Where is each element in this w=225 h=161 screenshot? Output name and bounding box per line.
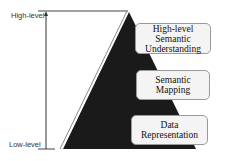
high-level-label: High-level [11, 11, 44, 20]
level-text-line: Representation [141, 130, 198, 140]
arrow-head-icon [44, 11, 48, 16]
level-box-semantic-mapping: Semantic Mapping [136, 70, 210, 100]
level-text-line: Data [161, 120, 179, 130]
level-text-line: Semantic [155, 75, 190, 85]
level-text-line: Understanding [145, 44, 201, 54]
semantic-level-pyramid-diagram: High-level Low-level High-level Semantic… [0, 0, 225, 161]
level-text-line: Mapping [156, 85, 190, 95]
level-text-line: High-level [153, 24, 194, 34]
level-box-high-level-semantic-understanding: High-level Semantic Understanding [135, 23, 211, 54]
level-box-data-representation: Data Representation [131, 115, 208, 145]
low-level-label: Low-level [9, 140, 41, 149]
level-text-line: Semantic [155, 34, 190, 44]
